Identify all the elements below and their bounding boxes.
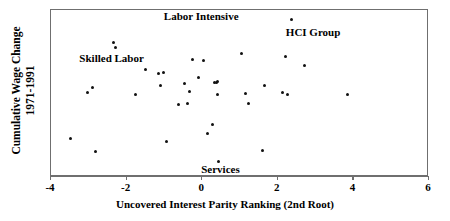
data-point [211, 123, 214, 126]
x-axis-tick [277, 176, 278, 180]
x-axis-tick-label: -2 [111, 181, 141, 193]
data-point [94, 150, 97, 153]
x-axis-tick-label: 0 [186, 181, 216, 193]
data-point [69, 137, 72, 140]
data-point [165, 140, 168, 143]
x-axis-tick-label: -4 [35, 181, 65, 193]
y-axis-label-line1: Cumulative Wage Change [10, 26, 24, 154]
y-axis-label-container: Cumulative Wage Change 1971-1991 [0, 0, 46, 180]
data-point [197, 76, 200, 79]
x-axis-tick [201, 176, 202, 180]
plot-area [50, 9, 428, 176]
chart-annotation: Labor Intensive [164, 10, 239, 22]
chart-annotation: HCI Group [286, 26, 341, 38]
data-point [86, 91, 89, 94]
x-axis-tick [428, 176, 429, 180]
x-axis-line [50, 176, 428, 177]
chart-annotation: Skilled Labor [79, 52, 144, 64]
x-axis-tick [126, 176, 127, 180]
y-axis-label-line2: 1971-1991 [23, 26, 37, 154]
data-point [186, 102, 189, 105]
data-point [216, 80, 219, 83]
x-axis-tick [352, 176, 353, 180]
x-axis-tick-label: 2 [262, 181, 292, 193]
chart-annotation: Services [201, 163, 239, 175]
data-point [290, 18, 293, 21]
x-axis-tick [50, 176, 51, 180]
x-axis-label: Uncovered Interest Parity Ranking (2nd R… [0, 198, 450, 210]
y-axis-label: Cumulative Wage Change 1971-1991 [10, 26, 37, 154]
scatter-chart-figure: Cumulative Wage Change 1971-1991 Labor I… [0, 0, 450, 221]
data-point [281, 91, 284, 94]
x-axis-tick-label: 4 [337, 181, 367, 193]
data-point [112, 41, 115, 44]
x-axis-tick-label: 6 [413, 181, 443, 193]
data-point [261, 149, 264, 152]
data-point [177, 103, 180, 106]
